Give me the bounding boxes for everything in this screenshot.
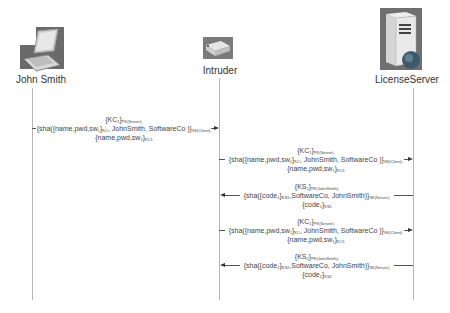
message-2-arrow	[219, 159, 225, 160]
message-5-arrow	[225, 265, 240, 266]
message-4-payload: {name,pwd,sw1}KC1	[222, 235, 410, 246]
message-3-arrow	[225, 195, 240, 196]
lifeline-license-server	[413, 88, 414, 300]
arrowhead-right-icon	[408, 228, 413, 232]
message-2-payload: {name,pwd,sw1}KC1	[222, 164, 410, 175]
actor-label-john-smith: John Smith	[6, 74, 76, 85]
network-device-icon	[203, 37, 233, 59]
message-3-payload: {code1}KS1	[232, 200, 402, 211]
message-1-arrow	[32, 128, 36, 129]
arrowhead-right-icon	[408, 157, 413, 161]
actor-label-license-server: LicenseServer	[367, 74, 447, 85]
message-4-arrow	[219, 230, 225, 231]
server-icon	[380, 8, 422, 70]
arrowhead-right-icon	[214, 126, 219, 130]
message-1-payload: {name,pwd,sw1}KC1	[34, 133, 214, 144]
laptop-icon	[18, 25, 68, 73]
actor-label-intruder: Intruder	[190, 65, 250, 76]
message-5-payload: {code2}KS2	[232, 270, 402, 281]
lifeline-john-smith	[32, 88, 33, 300]
